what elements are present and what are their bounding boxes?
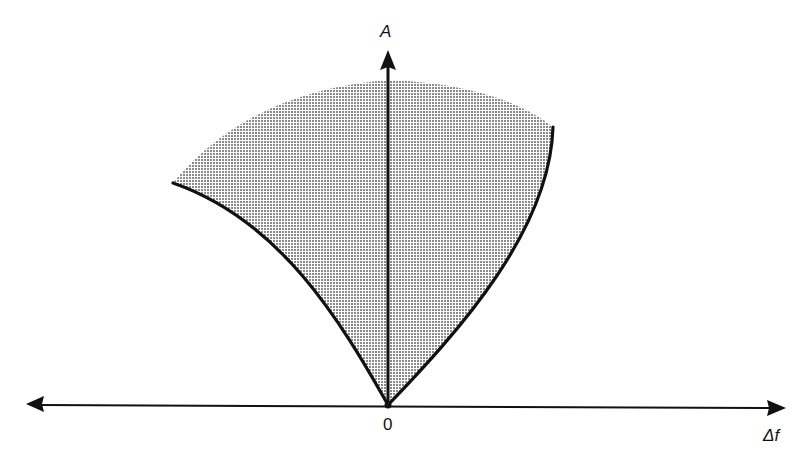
x-axis — [40, 405, 772, 408]
origin-label: 0 — [383, 415, 392, 435]
tongue-diagram — [0, 0, 809, 463]
y-axis-label: A — [380, 22, 391, 42]
x-axis-label: Δf — [763, 426, 779, 446]
x-axis-left-arrow-icon — [26, 396, 44, 412]
y-axis-up-arrow-icon — [380, 50, 396, 70]
x-axis-right-arrow-icon — [767, 400, 786, 416]
origin-point — [385, 402, 392, 409]
shaded-region — [173, 80, 553, 405]
